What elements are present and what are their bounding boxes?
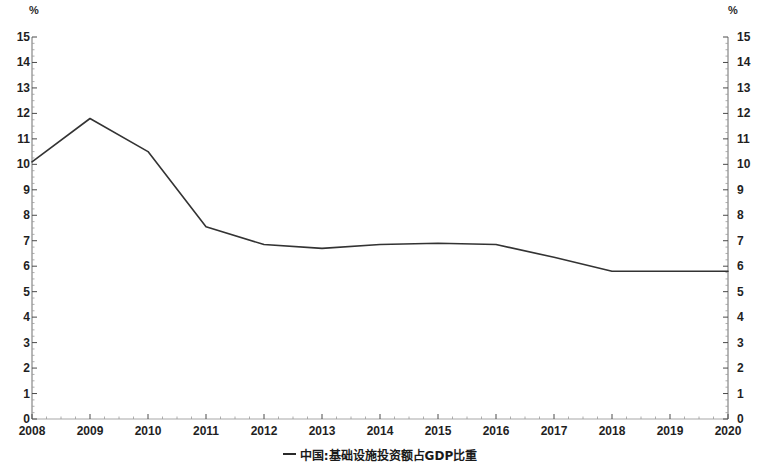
x-axis-tick-label: 2020: [705, 424, 751, 438]
axis-lines: [32, 37, 728, 419]
y-axis-right: 1514131211109876543210: [729, 0, 760, 464]
x-axis-tick-label: 2018: [589, 424, 635, 438]
y-axis-right-tick-label: 1: [737, 388, 760, 400]
y-axis-right-tick-label: 14: [737, 56, 760, 68]
x-axis-tick-label: 2014: [357, 424, 403, 438]
y-axis-right-tick-label: 3: [737, 337, 760, 349]
x-axis-tick-label: 2013: [299, 424, 345, 438]
y-axis-left-tick-label: 10: [8, 158, 30, 170]
y-axis-left-tick-label: 1: [8, 388, 30, 400]
y-axis-left-tick-label: 15: [8, 31, 30, 43]
y-axis-left-tick-label: 14: [8, 56, 30, 68]
y-axis-right-tick-label: 9: [737, 184, 760, 196]
x-axis-tick-label: 2015: [415, 424, 461, 438]
y-axis-left-tick-label: 9: [8, 184, 30, 196]
y-axis-right-tick-label: 2: [737, 362, 760, 374]
series-line-infrastructure-investment-gdp-share: [32, 118, 728, 271]
y-axis-left: 1514131211109876543210: [0, 0, 30, 464]
y-axis-left-tick-label: 13: [8, 82, 30, 94]
y-axis-left-tick-label: 5: [8, 286, 30, 298]
y-axis-right-tick-label: 7: [737, 235, 760, 247]
plot-area: [0, 0, 760, 464]
y-axis-left-tick-label: 11: [8, 133, 30, 145]
y-axis-left-tick-label: 2: [8, 362, 30, 374]
chart-container: % % 1514131211109876543210 1514131211109…: [0, 0, 760, 464]
y-axis-right-tick-label: 15: [737, 31, 760, 43]
tick-marks: [32, 37, 728, 419]
y-axis-right-tick-label: 8: [737, 209, 760, 221]
y-axis-left-unit: %: [29, 4, 39, 16]
y-axis-left-tick-label: 3: [8, 337, 30, 349]
x-axis-tick-label: 2008: [9, 424, 55, 438]
y-axis-left-tick-label: 6: [8, 260, 30, 272]
y-axis-right-tick-label: 13: [737, 82, 760, 94]
x-axis-tick-label: 2011: [183, 424, 229, 438]
x-axis-tick-label: 2010: [125, 424, 171, 438]
x-axis-tick-label: 2012: [241, 424, 287, 438]
y-axis-right-tick-label: 4: [737, 311, 760, 323]
x-axis-tick-label: 2009: [67, 424, 113, 438]
x-axis-tick-label: 2019: [647, 424, 693, 438]
y-axis-left-tick-label: 12: [8, 107, 30, 119]
y-axis-right-tick-label: 12: [737, 107, 760, 119]
y-axis-right-tick-label: 6: [737, 260, 760, 272]
legend-line-marker-icon: [283, 453, 296, 455]
x-axis-tick-label: 2017: [531, 424, 577, 438]
y-axis-left-tick-label: 7: [8, 235, 30, 247]
y-axis-right-tick-label: 5: [737, 286, 760, 298]
y-axis-left-tick-label: 8: [8, 209, 30, 221]
chart-legend: 中国:基础设施投资额占GDP比重: [0, 445, 760, 463]
y-axis-right-tick-label: 10: [737, 158, 760, 170]
y-axis-right-tick-label: 11: [737, 133, 760, 145]
x-axis-tick-label: 2016: [473, 424, 519, 438]
y-axis-left-tick-label: 4: [8, 311, 30, 323]
legend-item-label: 中国:基础设施投资额占GDP比重: [300, 446, 477, 463]
